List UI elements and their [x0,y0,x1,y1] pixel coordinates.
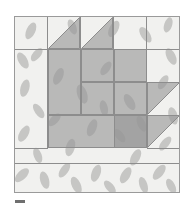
patch-hst-top-left [48,17,80,49]
caption-tick-mark [15,200,25,203]
seam-vertical-4 [146,17,147,49]
quilt-block [14,16,180,193]
patch-hst-right-upper [147,82,180,115]
seam-horizontal-top-left [15,49,48,50]
seam-horizontal-right-low [147,115,180,116]
seam-horizontal-top-right [146,49,180,50]
patch-hst-right-lower [147,115,180,148]
patch-square-inner [81,82,114,115]
seam-horizontal-bottom-border [15,163,180,164]
seam-vertical-1 [47,17,48,148]
patch-square-center-right [114,49,147,82]
patch-square-center [81,49,114,82]
seam-horizontal-right-bottom [147,148,180,149]
patch-band-bottom-right [114,115,147,148]
seam-vertical-3 [113,17,114,49]
figure-canvas [0,0,196,208]
patch-hst-top-right [81,17,113,49]
seam-horizontal-bottom-left [15,148,48,149]
seam-vertical-5 [146,49,147,148]
seam-vertical-2 [80,17,81,49]
patch-band-middle-right [114,82,147,115]
patch-square-left [48,49,81,115]
seam-horizontal-right-mid [147,82,180,83]
